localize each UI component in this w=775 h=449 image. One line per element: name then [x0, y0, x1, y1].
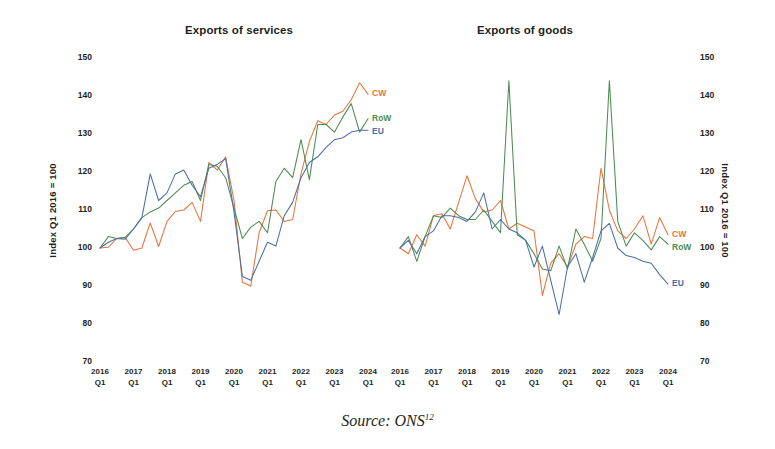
source-note: Source: ONS12 [0, 412, 775, 430]
series-line-cw [400, 168, 668, 295]
series-line-row [400, 81, 668, 271]
series-label-eu: EU [672, 278, 684, 288]
series-label-row: RoW [672, 242, 691, 252]
figure-container: Exports of services Exports of goods Ind… [0, 0, 775, 449]
source-note-footnote: 12 [425, 412, 434, 422]
series-label-row: RoW [372, 113, 391, 123]
source-note-text: Source: ONS [341, 412, 424, 429]
plot-area-goods [0, 0, 775, 449]
series-label-cw: CW [372, 88, 386, 98]
series-label-eu: EU [372, 126, 384, 136]
series-label-cw: CW [672, 229, 686, 239]
